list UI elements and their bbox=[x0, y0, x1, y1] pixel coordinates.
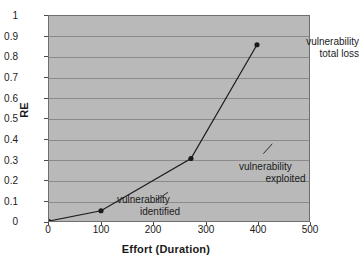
y-tick-0.8: 0.8 bbox=[0, 52, 18, 62]
x-tick-0: 0 bbox=[28, 225, 68, 235]
annotation-vulnerability-total-loss: vulnerability total loss bbox=[264, 36, 359, 59]
x-tick-mark bbox=[101, 222, 102, 226]
y-tick-0.6: 0.6 bbox=[0, 94, 18, 104]
annotation-vulnerability-exploited: vulnerability exploited bbox=[239, 161, 344, 184]
y-tick-1.0: 1 bbox=[0, 11, 18, 21]
x-tick-500: 500 bbox=[290, 225, 330, 235]
y-axis-title: RE bbox=[18, 80, 30, 140]
x-tick-200: 200 bbox=[133, 225, 173, 235]
x-tick-mark bbox=[48, 222, 49, 226]
x-tick-100: 100 bbox=[81, 225, 121, 235]
plot-area: vulnerability total loss vulnerability e… bbox=[48, 15, 310, 222]
y-tick-0.5: 0.5 bbox=[0, 114, 18, 124]
x-tick-300: 300 bbox=[186, 225, 226, 235]
y-tick-0.2: 0.2 bbox=[0, 176, 18, 186]
x-tick-mark bbox=[258, 222, 259, 226]
leader-total-loss bbox=[263, 144, 272, 154]
x-tick-mark bbox=[153, 222, 154, 226]
y-tick-0.7: 0.7 bbox=[0, 73, 18, 83]
y-tick-0.3: 0.3 bbox=[0, 156, 18, 166]
annotation-vulnerability-identified: vulnerability identified bbox=[117, 194, 207, 217]
y-tick-0.9: 0.9 bbox=[0, 32, 18, 42]
y-tick-0.1: 0.1 bbox=[0, 197, 18, 207]
y-tick-0.4: 0.4 bbox=[0, 135, 18, 145]
x-tick-mark bbox=[206, 222, 207, 226]
y-tick-0: 0 bbox=[0, 217, 18, 227]
x-tick-mark bbox=[310, 222, 311, 226]
x-axis-title: Effort (Duration) bbox=[0, 243, 332, 255]
x-tick-400: 400 bbox=[238, 225, 278, 235]
